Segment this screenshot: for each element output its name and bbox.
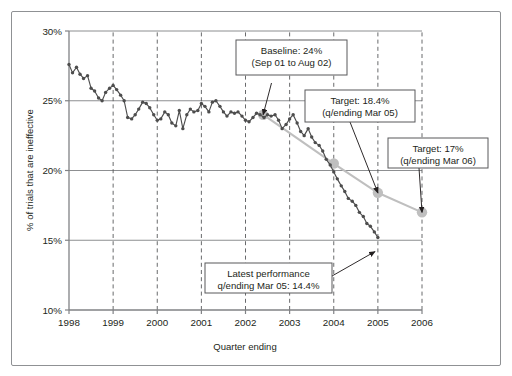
annotation-callouts: Baseline: 24%(Sep 01 to Aug 02)Target: 1…	[205, 40, 488, 293]
data-point-marker	[126, 116, 129, 119]
data-point-marker	[100, 99, 103, 102]
axis-titles-group: Quarter ending % of trials that are inef…	[24, 109, 277, 352]
data-point-marker	[222, 110, 225, 113]
data-point-marker	[258, 113, 261, 116]
data-point-marker	[376, 236, 379, 239]
data-point-marker	[185, 113, 188, 116]
callout-line1-target-18: Target: 18.4%	[330, 95, 390, 106]
data-point-marker	[82, 77, 85, 80]
x-tick-label: 1998	[58, 317, 80, 328]
data-point-marker	[266, 113, 269, 116]
data-point-marker	[192, 110, 195, 113]
data-point-marker	[170, 121, 173, 124]
data-point-marker	[111, 84, 114, 87]
data-point-marker	[310, 135, 313, 138]
data-point-marker	[225, 114, 228, 117]
data-point-marker	[115, 88, 118, 91]
data-point-marker	[325, 158, 328, 161]
data-point-marker	[288, 117, 291, 120]
callout-target-17: Target: 17%(q/ending Mar 06)	[388, 138, 488, 168]
data-point-marker	[273, 113, 276, 116]
data-point-marker	[89, 86, 92, 89]
data-point-marker	[317, 144, 320, 147]
y-tick-label: 30%	[42, 26, 62, 37]
data-point-marker	[152, 113, 155, 116]
callout-latest: Latest performanceq/ending Mar 05: 14.4%	[205, 263, 332, 293]
data-point-marker	[214, 99, 217, 102]
data-point-marker	[358, 211, 361, 214]
data-point-marker	[78, 73, 81, 76]
data-point-marker	[148, 106, 151, 109]
callout-line1-latest: Latest performance	[227, 268, 310, 279]
data-point-marker	[373, 230, 376, 233]
data-point-marker	[71, 71, 74, 74]
data-point-marker	[218, 105, 221, 108]
data-point-marker	[302, 134, 305, 137]
data-point-marker	[167, 113, 170, 116]
x-tick-label: 1999	[102, 317, 124, 328]
callout-line1-baseline: Baseline: 24%	[261, 45, 323, 56]
data-point-marker	[163, 110, 166, 113]
leader-line-target-18	[350, 122, 378, 193]
data-point-marker	[75, 66, 78, 69]
chart-canvas: 10%15%20%25%30%1998199920002001200220032…	[0, 0, 512, 376]
y-axis-title: % of trials that are ineffective	[24, 109, 35, 231]
data-point-marker	[255, 112, 258, 115]
data-point-marker	[133, 113, 136, 116]
data-point-marker	[244, 119, 247, 122]
data-point-marker	[347, 197, 350, 200]
leader-line-target-17	[419, 168, 422, 212]
callout-line2-target-17: (q/ending Mar 06)	[400, 155, 476, 166]
callout-line1-target-17: Target: 17%	[412, 143, 464, 154]
data-point-marker	[295, 121, 298, 124]
data-point-marker	[329, 163, 332, 166]
leader-line-baseline	[263, 83, 271, 115]
data-point-marker	[343, 190, 346, 193]
callout-line2-baseline: (Sep 01 to Aug 02)	[251, 57, 331, 68]
data-point-marker	[156, 119, 159, 122]
data-point-marker	[67, 63, 70, 66]
x-tick-label: 2004	[323, 317, 345, 328]
data-point-marker	[340, 184, 343, 187]
x-axis-title: Quarter ending	[213, 341, 276, 352]
data-point-marker	[284, 123, 287, 126]
data-point-marker	[262, 116, 265, 119]
data-point-marker	[174, 124, 177, 127]
y-tick-label: 15%	[42, 235, 62, 246]
data-point-marker	[277, 119, 280, 122]
x-tick-label: 2000	[146, 317, 168, 328]
data-point-marker	[332, 170, 335, 173]
actual-performance-series	[67, 63, 379, 239]
data-point-marker	[233, 112, 236, 115]
x-tick-label: 2005	[367, 317, 389, 328]
y-tick-label: 25%	[42, 95, 62, 106]
data-point-marker	[251, 116, 254, 119]
data-point-marker	[119, 93, 122, 96]
data-point-marker	[369, 225, 372, 228]
data-point-marker	[211, 100, 214, 103]
data-point-marker	[306, 127, 309, 130]
data-point-marker	[141, 100, 144, 103]
x-tick-label: 2002	[235, 317, 257, 328]
data-point-marker	[229, 110, 232, 113]
data-point-marker	[203, 105, 206, 108]
leader-line-latest	[332, 252, 375, 276]
chart-screenshot: 10%15%20%25%30%1998199920002001200220032…	[0, 0, 512, 376]
y-tick-label: 20%	[42, 165, 62, 176]
callout-line2-latest: q/ending Mar 05: 14.4%	[218, 280, 320, 291]
data-point-marker	[93, 89, 96, 92]
data-point-marker	[365, 222, 368, 225]
data-point-marker	[189, 107, 192, 110]
data-point-marker	[108, 86, 111, 89]
data-point-marker	[137, 107, 140, 110]
data-point-marker	[247, 120, 250, 123]
data-point-marker	[159, 117, 162, 120]
x-tick-label: 2003	[279, 317, 301, 328]
data-point-marker	[122, 99, 125, 102]
data-point-marker	[200, 102, 203, 105]
x-tick-label: 2006	[411, 317, 433, 328]
data-point-marker	[236, 110, 239, 113]
data-point-marker	[291, 113, 294, 116]
x-tick-label: 2001	[190, 317, 212, 328]
data-point-marker	[196, 109, 199, 112]
